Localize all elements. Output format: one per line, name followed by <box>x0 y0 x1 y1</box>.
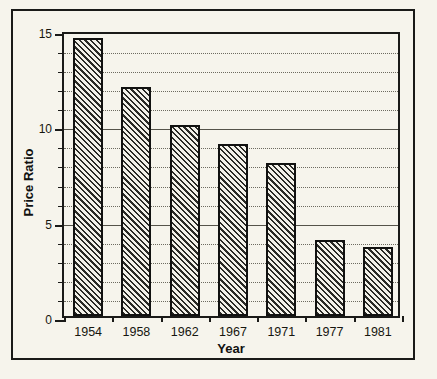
y-tick-minor <box>58 206 64 207</box>
y-tick-minor <box>58 301 64 302</box>
gridline-minor <box>64 72 398 73</box>
y-tick-major <box>55 129 64 131</box>
gridline-minor <box>64 53 398 54</box>
bar <box>363 247 393 316</box>
plot-inner <box>64 34 398 316</box>
y-tick-minor <box>58 244 64 245</box>
y-tick-minor <box>58 53 64 54</box>
bar <box>315 240 345 316</box>
x-tick <box>305 316 307 322</box>
y-tick-minor <box>58 91 64 92</box>
x-tick-label: 1958 <box>123 325 151 339</box>
x-tick <box>257 316 259 322</box>
figure-canvas: 0510151954195819621967197119771981 Year … <box>0 0 437 379</box>
gridline-minor <box>64 91 398 92</box>
bar <box>218 144 248 316</box>
x-tick-label: 1954 <box>74 325 102 339</box>
x-tick-label: 1981 <box>364 325 392 339</box>
y-tick-major <box>55 34 64 36</box>
y-tick-major <box>55 225 64 227</box>
y-tick-minor <box>58 148 64 149</box>
y-tick-label: 5 <box>45 218 52 232</box>
bar <box>266 163 296 316</box>
x-tick-label: 1962 <box>171 325 199 339</box>
x-tick <box>402 316 404 322</box>
bar <box>121 87 151 316</box>
y-tick-minor <box>58 187 64 188</box>
x-tick-label: 1977 <box>316 325 344 339</box>
y-tick-minor <box>58 72 64 73</box>
x-tick <box>112 316 114 322</box>
x-tick <box>209 316 211 322</box>
y-tick-minor <box>58 263 64 264</box>
x-tick <box>161 316 163 322</box>
x-tick <box>64 316 66 322</box>
y-tick-minor <box>58 110 64 111</box>
y-tick-label: 15 <box>39 27 52 41</box>
plot-area: 0510151954195819621967197119771981 <box>62 32 400 318</box>
x-axis-label: Year <box>62 341 400 356</box>
x-tick-label: 1971 <box>267 325 295 339</box>
y-tick-label: 10 <box>39 122 52 136</box>
bar <box>73 38 103 316</box>
y-tick-minor <box>58 282 64 283</box>
x-tick <box>354 316 356 322</box>
bar <box>170 125 200 316</box>
y-tick-minor <box>58 167 64 168</box>
y-tick-major <box>55 320 64 322</box>
y-tick-label: 0 <box>45 313 52 327</box>
gridline-major <box>64 129 398 130</box>
gridline-minor <box>64 110 398 111</box>
y-axis-label: Price Ratio <box>21 123 36 243</box>
x-tick-label: 1967 <box>219 325 247 339</box>
